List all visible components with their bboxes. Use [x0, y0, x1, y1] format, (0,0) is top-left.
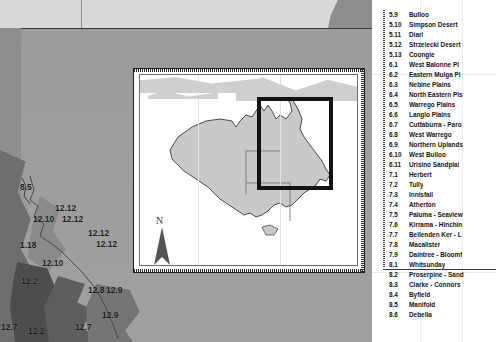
legend-item[interactable]: 5.13Coongie — [389, 50, 489, 60]
legend-item-label: West Bulloo — [409, 150, 446, 160]
legend-item[interactable]: 8.4Byfield — [389, 290, 489, 300]
legend-item-label: Atherton — [409, 200, 436, 210]
north-arrow-icon: N — [152, 215, 172, 265]
legend-item-code: 8.5 — [389, 300, 409, 310]
legend-item-code: 6.10 — [389, 150, 409, 160]
legend-item[interactable]: 7.5Paluma - Seaview — [389, 210, 489, 220]
legend-item[interactable]: 6.6Langlo Plains — [389, 110, 489, 120]
legend-item[interactable]: 8.6Debella — [389, 310, 489, 320]
bioregion-map-label: 12.2 — [28, 326, 45, 336]
legend-item-code: 7.8 — [389, 240, 409, 250]
legend-item-label: Simpson Desert — [409, 20, 458, 30]
legend-item[interactable]: 6.11Urisino Sandplai — [389, 160, 489, 170]
legend-item[interactable]: 7.6Kirrama - Hinchin — [389, 220, 489, 230]
legend-item-code: 6.4 — [389, 90, 409, 100]
legend-item[interactable]: 6.7Cuttaburra - Paro — [389, 120, 489, 130]
bioregion-map-label: 12.12 — [96, 239, 117, 249]
legend-item-code: 6.2 — [389, 70, 409, 80]
legend-item[interactable]: 8.2Proserpine - Sand — [389, 270, 489, 280]
bioregion-map-label: 12.7 — [1, 322, 18, 332]
legend-item[interactable]: 5.10Simpson Desert — [389, 20, 489, 30]
legend-item-code: 6.1 — [389, 60, 409, 70]
legend-item-label: Tully — [409, 180, 423, 190]
legend-item-label: Proserpine - Sand — [409, 270, 464, 280]
legend-item[interactable]: 6.10West Bulloo — [389, 150, 489, 160]
north-arrow-label: N — [156, 215, 163, 226]
legend-item-label: North Eastern Pls — [409, 90, 463, 100]
bioregion-legend: 5.9Bulloo5.10Simpson Desert5.11Diari5.12… — [383, 10, 488, 268]
legend-item-code: 5.11 — [389, 30, 409, 40]
bioregion-map-label: 8.5 — [20, 182, 32, 192]
legend-item[interactable]: 6.2Eastern Mulga Pl — [389, 70, 489, 80]
legend-item-label: Manifold — [409, 300, 435, 310]
legend-item[interactable]: 6.3Nebine Plains — [389, 80, 489, 90]
legend-item[interactable]: 6.4North Eastern Pls — [389, 90, 489, 100]
bioregion-map-label: 12.12 — [55, 203, 76, 213]
legend-item[interactable]: 5.12Strzelecki Desert — [389, 40, 489, 50]
legend-item[interactable]: 7.7Bellenden Ker - L — [389, 230, 489, 240]
legend-item-label: Strzelecki Desert — [409, 40, 461, 50]
legend-item-code: 5.13 — [389, 50, 409, 60]
legend-item-label: West Warrego — [409, 130, 452, 140]
legend-item-code: 8.2 — [389, 270, 409, 280]
legend-item[interactable]: 6.1West Balonne Pl — [389, 60, 489, 70]
legend-item[interactable]: 7.1Herbert — [389, 170, 489, 180]
legend-item-label: Byfield — [409, 290, 430, 300]
bioregion-map-label: 12.10 — [33, 214, 54, 224]
inset-map-canvas: N — [139, 74, 358, 266]
map-figure-screen: 8.512.1212.1012.1212.1212.121.1812.1012.… — [0, 0, 496, 342]
legend-item-label: West Balonne Pl — [409, 60, 459, 70]
legend-item-label: Macalister — [409, 240, 440, 250]
inset-locator-map[interactable]: N — [133, 68, 365, 273]
bioregion-map-label: 12.12 — [62, 214, 83, 224]
legend-item-code: 8.4 — [389, 290, 409, 300]
study-area-highlight-box[interactable] — [257, 97, 333, 190]
legend-item-code: 6.7 — [389, 120, 409, 130]
legend-item-code: 6.5 — [389, 100, 409, 110]
legend-item-label: Clarke - Connors — [409, 280, 461, 290]
legend-item[interactable]: 7.8Macalister — [389, 240, 489, 250]
inset-border-dots-right — [361, 69, 364, 272]
legend-item[interactable]: 6.9Northern Uplands — [389, 140, 489, 150]
legend-item[interactable]: 8.5Manifold — [389, 300, 489, 310]
bioregion-map-label: 12.10 — [42, 258, 63, 268]
legend-item-label: Bellenden Ker - L — [409, 230, 462, 240]
legend-item-label: Urisino Sandplai — [409, 160, 459, 170]
legend-item[interactable]: 7.4Atherton — [389, 200, 489, 210]
inset-border-dots-bottom — [134, 269, 364, 272]
legend-item-label: Debella — [409, 310, 432, 320]
legend-item-code: 5.9 — [389, 10, 409, 20]
legend-item-code: 6.6 — [389, 110, 409, 120]
legend-item[interactable]: 7.9Daintree - Bloomf — [389, 250, 489, 260]
legend-item[interactable]: 8.3Clarke - Connors — [389, 280, 489, 290]
legend-leader-line — [383, 10, 385, 268]
legend-item-label: Langlo Plains — [409, 110, 451, 120]
bioregion-map-label: 12.9 — [106, 285, 123, 295]
legend-item-label: Paluma - Seaview — [409, 210, 463, 220]
legend-item-label: Cuttaburra - Paro — [409, 120, 462, 130]
bioregion-map-label: 1.18 — [20, 240, 37, 250]
north-arrow-glyph — [152, 227, 172, 265]
legend-item[interactable]: 5.11Diari — [389, 30, 489, 40]
legend-item-code: 7.6 — [389, 220, 409, 230]
legend-item-label: Daintree - Bloomf — [409, 250, 462, 260]
legend-item-label: Coongie — [409, 50, 435, 60]
legend-item-code: 7.1 — [389, 170, 409, 180]
legend-bottom-rule — [383, 269, 496, 270]
inset-border-dots-top — [134, 69, 364, 72]
legend-item[interactable]: 5.9Bulloo — [389, 10, 489, 20]
legend-item-label: Bulloo — [409, 10, 429, 20]
legend-item-code: 8.3 — [389, 280, 409, 290]
legend-item-list: 5.9Bulloo5.10Simpson Desert5.11Diari5.12… — [389, 10, 489, 320]
legend-item[interactable]: 7.2Tully — [389, 180, 489, 190]
legend-item-code: 7.5 — [389, 210, 409, 220]
legend-item[interactable]: 6.5Warrego Plains — [389, 100, 489, 110]
legend-item-code: 7.4 — [389, 200, 409, 210]
legend-item-label: Warrego Plains — [409, 100, 455, 110]
legend-item[interactable]: 7.3Innisfail — [389, 190, 489, 200]
bioregion-map-label: 12.2 — [21, 276, 38, 286]
bioregion-map-label: 12.8 — [88, 285, 105, 295]
legend-item-code: 6.8 — [389, 130, 409, 140]
bioregion-map-label: 12.7 — [75, 322, 92, 332]
legend-item[interactable]: 6.8West Warrego — [389, 130, 489, 140]
